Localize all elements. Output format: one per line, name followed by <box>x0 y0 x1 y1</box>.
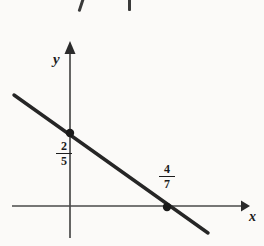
y-axis-arrowhead <box>65 41 76 54</box>
x-intercept-numerator: 4 <box>159 163 175 176</box>
y-intercept-fraction-label: 2 5 <box>56 140 72 167</box>
x-intercept-fraction-label: 4 7 <box>159 163 175 190</box>
x-axis-label: x <box>249 210 256 224</box>
vertical-stroke-icon <box>128 0 131 11</box>
graph-figure: y x 2 5 4 7 <box>0 0 264 246</box>
y-intercept-point <box>66 129 74 137</box>
plotted-line <box>14 95 208 233</box>
coordinate-plane-svg <box>0 0 264 246</box>
x-intercept-point <box>163 203 171 211</box>
y-intercept-denominator: 5 <box>56 155 72 168</box>
y-intercept-numerator: 2 <box>56 140 72 153</box>
y-axis-label: y <box>53 52 60 67</box>
x-intercept-denominator: 7 <box>159 178 175 191</box>
